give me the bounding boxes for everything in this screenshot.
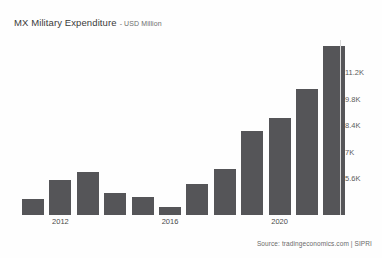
chart-subtitle: - USD Million <box>120 20 162 27</box>
bar <box>323 46 345 215</box>
y-axis-tick-label: 7K <box>345 147 354 156</box>
x-axis-labels: 201220162020 <box>0 217 340 231</box>
chart-header: MX Military Expenditure- USD Million <box>14 12 162 30</box>
bar <box>296 89 318 215</box>
y-axis-tick-label: 8.4K <box>345 121 360 130</box>
x-axis-tick-label: 2020 <box>271 217 288 226</box>
bar <box>132 197 154 215</box>
y-axis-labels: 5.6K7K8.4K9.8K11.2K <box>345 40 382 215</box>
bar <box>104 193 126 215</box>
chart-container: MX Military Expenditure- USD Million 5.6… <box>0 0 382 258</box>
y-axis-line <box>340 40 341 215</box>
bar <box>186 184 208 215</box>
source-note: Source: tradingeconomics.com | SIPRI <box>257 240 372 247</box>
bar <box>22 199 44 215</box>
y-axis-tick-label: 11.2K <box>345 68 364 77</box>
plot-area <box>0 40 340 215</box>
bar <box>77 172 99 215</box>
bar <box>269 118 291 215</box>
y-axis-tick-label: 9.8K <box>345 94 360 103</box>
bar <box>241 131 263 215</box>
page-title: MX Military Expenditure <box>14 17 117 28</box>
x-axis-tick-label: 2016 <box>162 217 179 226</box>
y-axis-tick-label: 5.6K <box>345 174 360 183</box>
bar <box>214 169 236 215</box>
bar <box>159 207 181 215</box>
x-axis-tick-label: 2012 <box>52 217 69 226</box>
bar <box>49 180 71 215</box>
